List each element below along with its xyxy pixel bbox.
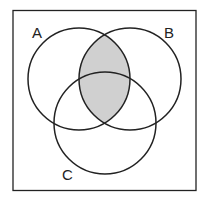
label-a: A	[32, 24, 42, 41]
venn-diagram: A B C	[0, 0, 207, 199]
label-b: B	[164, 24, 174, 41]
label-c: C	[62, 166, 73, 183]
